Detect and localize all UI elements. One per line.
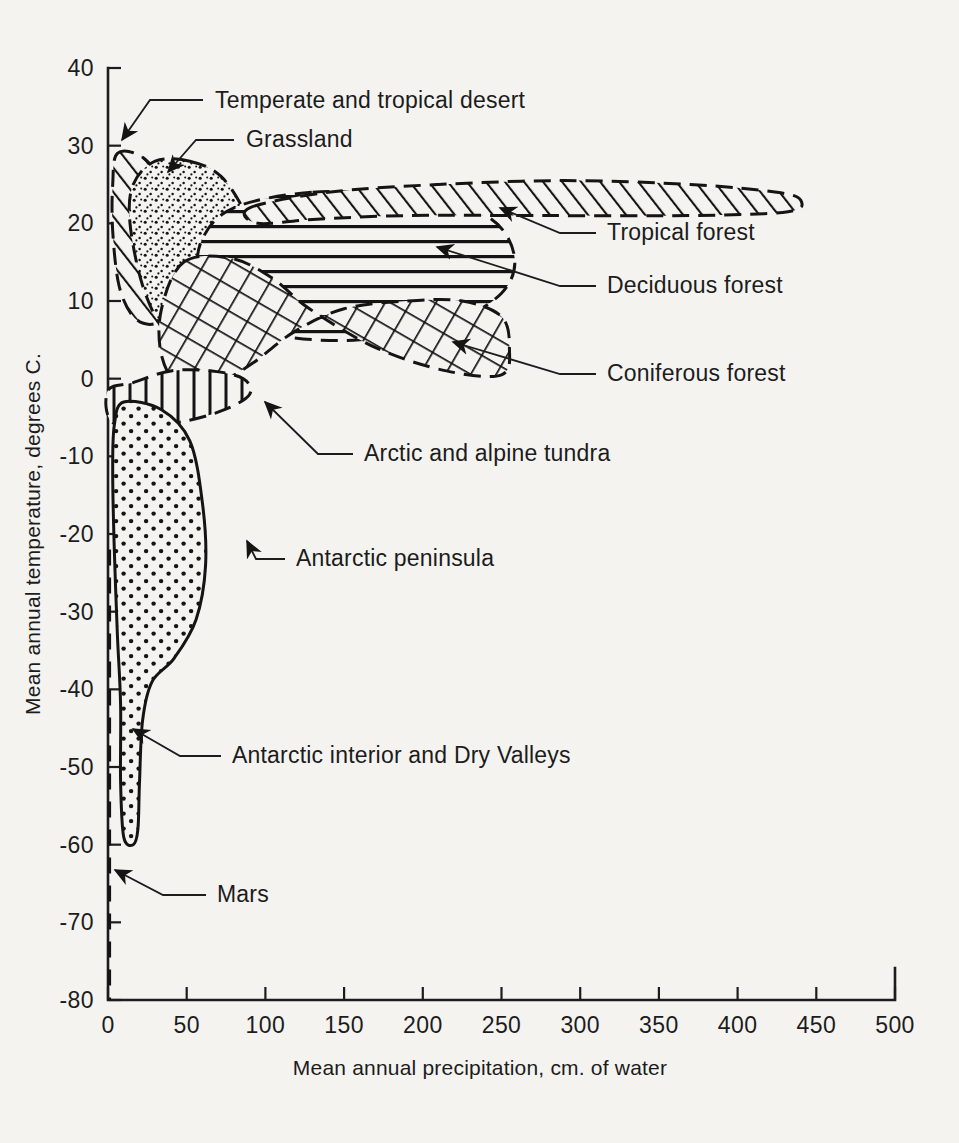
x-tick-label: 500 xyxy=(875,1012,915,1038)
y-tick-label: 30 xyxy=(68,133,94,159)
y-axis-title: Mean annual temperature, degrees C. xyxy=(21,353,44,715)
y-tick-label: -60 xyxy=(60,832,94,858)
x-tick-label: 50 xyxy=(174,1012,200,1038)
x-tick-label: 0 xyxy=(101,1012,114,1038)
y-tick-label: 40 xyxy=(68,55,94,81)
biome-climate-chart: 403020100-10-20-30-40-50-60-70-80 050100… xyxy=(0,0,959,1143)
annotation-label-tropical: Tropical forest xyxy=(607,219,755,245)
y-tick-label: 0 xyxy=(81,366,94,392)
x-tick-label: 300 xyxy=(560,1012,600,1038)
y-tick-label: -30 xyxy=(60,599,94,625)
y-tick-label: 10 xyxy=(68,288,94,314)
x-tick-label: 400 xyxy=(718,1012,758,1038)
y-tick-label: -20 xyxy=(60,521,94,547)
chart-svg: 403020100-10-20-30-40-50-60-70-80 050100… xyxy=(0,0,959,1143)
y-tick-label: -80 xyxy=(60,987,94,1013)
y-tick-label: -40 xyxy=(60,676,94,702)
annotation-label-deciduous: Deciduous forest xyxy=(607,272,783,298)
x-tick-label: 450 xyxy=(797,1012,837,1038)
annotation-label-peninsula: Antarctic peninsula xyxy=(296,545,494,571)
y-tick-label: -50 xyxy=(60,754,94,780)
annotation-label-mars: Mars xyxy=(217,881,269,907)
annotation-label-grassland: Grassland xyxy=(246,126,353,152)
y-tick-label: -10 xyxy=(60,443,94,469)
y-tick-label: -70 xyxy=(60,909,94,935)
y-tick-label: 20 xyxy=(68,210,94,236)
annotation-label-coniferous: Coniferous forest xyxy=(607,360,786,386)
x-tick-label: 150 xyxy=(324,1012,364,1038)
annotation-label-desert: Temperate and tropical desert xyxy=(215,87,525,113)
annotation-label-tundra: Arctic and alpine tundra xyxy=(364,440,610,466)
x-tick-label: 100 xyxy=(246,1012,286,1038)
x-tick-label: 200 xyxy=(403,1012,443,1038)
x-tick-label: 250 xyxy=(482,1012,522,1038)
x-tick-label: 350 xyxy=(639,1012,679,1038)
x-axis-title: Mean annual precipitation, cm. of water xyxy=(293,1056,667,1079)
annotation-label-interior: Antarctic interior and Dry Valleys xyxy=(232,742,571,768)
